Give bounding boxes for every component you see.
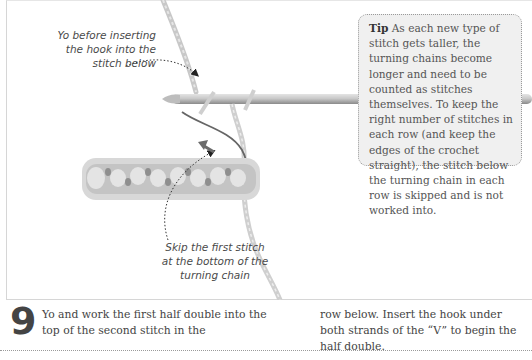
callout-yo-before-inserting: Yo before inserting the hook into the st… bbox=[46, 28, 156, 70]
step-text-column-1: Yo and work the first half double into t… bbox=[42, 307, 274, 339]
callout-skip-first-stitch: Skip the first stitch at the bottom of t… bbox=[160, 240, 270, 282]
dotted-divider bbox=[0, 350, 532, 351]
tip-box: Tip As each new type of stitch gets tall… bbox=[358, 14, 522, 166]
step-9: 9 Yo and work the first half double into… bbox=[10, 305, 526, 347]
step-text-column-2: row below. Insert the hook under both st… bbox=[320, 307, 530, 355]
tip-body: As each new type of stitch gets taller, … bbox=[369, 22, 513, 216]
step-number: 9 bbox=[10, 302, 36, 340]
tip-title: Tip bbox=[369, 22, 388, 34]
crochet-swatch bbox=[82, 158, 260, 200]
